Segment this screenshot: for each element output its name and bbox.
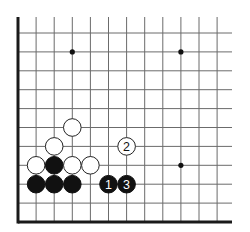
- star-point-icon: [178, 49, 183, 54]
- white-stone-2: 2: [118, 138, 136, 156]
- stone-icon: [45, 157, 63, 175]
- stone-icon: [27, 175, 45, 193]
- move-number-label: 2: [123, 140, 130, 154]
- star-point-icon: [70, 49, 75, 54]
- black-stone: [45, 175, 63, 193]
- stone-icon: [64, 175, 82, 193]
- white-stone: [64, 119, 82, 137]
- stones-layer: 213: [27, 119, 135, 193]
- black-stone-3: 3: [118, 175, 136, 193]
- stone-icon: [45, 175, 63, 193]
- star-point-icon: [178, 163, 183, 168]
- black-stone: [45, 157, 63, 175]
- move-number-label: 1: [105, 178, 112, 192]
- white-stone: [82, 157, 100, 175]
- white-stone: [45, 138, 63, 156]
- black-stone: [64, 175, 82, 193]
- stone-icon: [64, 157, 82, 175]
- stone-icon: [82, 157, 100, 175]
- stone-icon: [45, 138, 63, 156]
- stone-icon: [64, 119, 82, 137]
- stone-icon: [27, 157, 45, 175]
- white-stone: [64, 157, 82, 175]
- white-stone: [27, 157, 45, 175]
- black-stone-1: 1: [100, 175, 118, 193]
- go-board: 213: [0, 0, 250, 232]
- move-number-label: 3: [123, 178, 130, 192]
- black-stone: [27, 175, 45, 193]
